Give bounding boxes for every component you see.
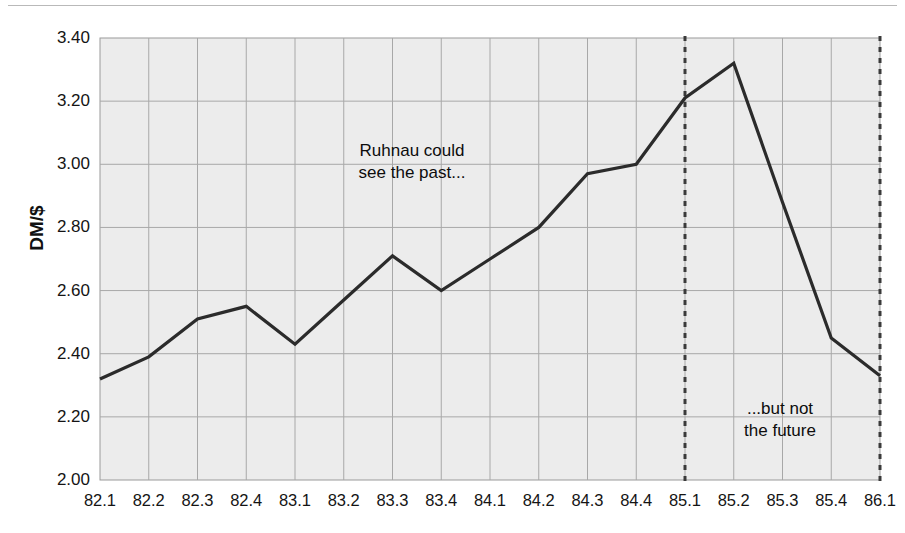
y-axis-tick-label: 2.40 xyxy=(36,345,90,362)
annotation-ruhnau-past: Ruhnau could see the past... xyxy=(312,140,512,184)
plot-canvas xyxy=(0,0,905,533)
y-axis-tick-label: 3.20 xyxy=(36,92,90,109)
y-axis-tick-label: 2.20 xyxy=(36,408,90,425)
y-axis-tick-label: 2.60 xyxy=(36,282,90,299)
top-divider-rule xyxy=(8,5,897,6)
y-axis-tick-label: 2.80 xyxy=(36,218,90,235)
annotation-but-not-future: ...but not the future xyxy=(690,398,870,442)
y-axis-tick-label: 3.00 xyxy=(36,155,90,172)
chart-figure: DM/$ 3.403.203.002.802.602.402.202.00 82… xyxy=(0,0,905,533)
x-axis-tick-label: 86.1 xyxy=(845,491,905,510)
y-axis-tick-label: 2.00 xyxy=(36,471,90,488)
y-axis-tick-label: 3.40 xyxy=(36,29,90,46)
